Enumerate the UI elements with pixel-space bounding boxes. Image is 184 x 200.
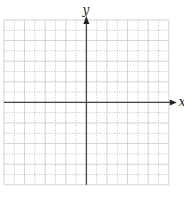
- x-axis-label: x: [179, 95, 184, 109]
- x-axis-arrow-icon: [170, 99, 177, 105]
- y-axis-label: y: [81, 3, 89, 17]
- coordinate-grid: x y: [0, 0, 184, 200]
- axes: [4, 16, 177, 185]
